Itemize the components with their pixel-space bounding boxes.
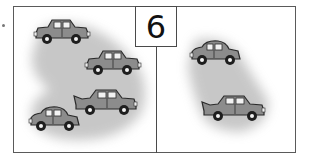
number-label: 6 <box>146 11 166 43</box>
number-box: 6 <box>135 6 177 47</box>
